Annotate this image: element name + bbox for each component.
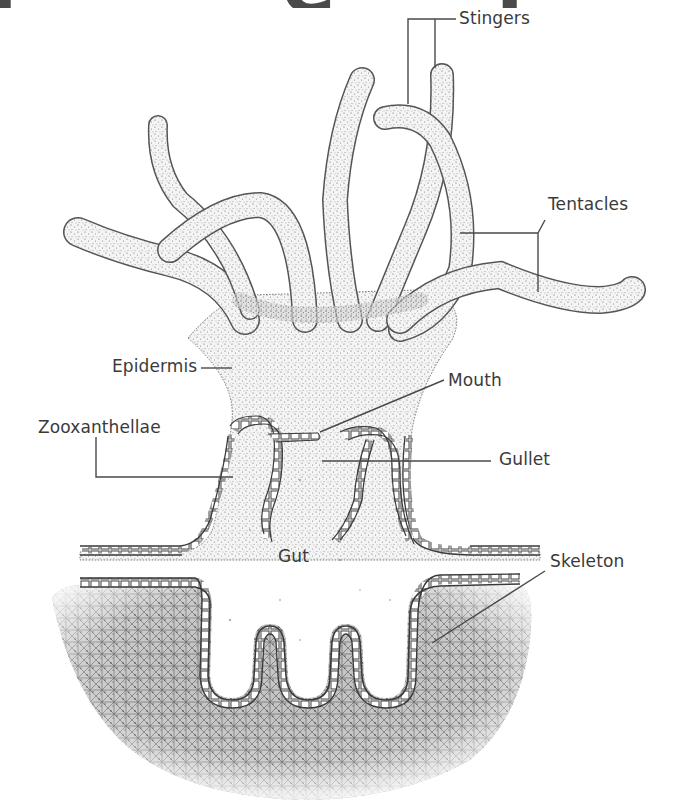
label-epidermis: Epidermis	[112, 358, 197, 375]
label-stingers: Stingers	[459, 10, 530, 27]
label-zooxanthellae: Zooxanthellae	[38, 419, 161, 436]
label-gullet: Gullet	[499, 451, 550, 468]
label-mouth: Mouth	[448, 372, 502, 389]
coral-polyp-diagram	[0, 0, 676, 808]
label-gut: Gut	[278, 548, 309, 565]
label-tentacles: Tentacles	[548, 196, 628, 213]
label-skeleton: Skeleton	[550, 553, 624, 570]
leader-zooxanthellae	[96, 437, 233, 477]
